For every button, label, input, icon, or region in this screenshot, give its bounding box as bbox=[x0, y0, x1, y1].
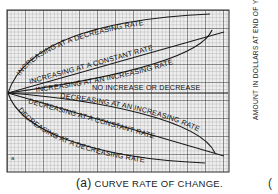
label-no-change: NO INCREASE OR DECREASE bbox=[92, 83, 201, 92]
figure-caption: (a) CURVE RATE OF CHANGE. bbox=[76, 176, 223, 190]
caption-text: CURVE RATE OF CHANGE. bbox=[95, 178, 223, 189]
rate-of-change-diagram: INCREASING AT A DECREASING RATE INCREASI… bbox=[0, 0, 278, 194]
side-partial-glyph: ( bbox=[268, 176, 272, 190]
side-axis-label: AMOUNT IN DOLLARS AT END OF YEAR bbox=[252, 0, 259, 120]
caption-marker: (a) bbox=[76, 176, 92, 190]
